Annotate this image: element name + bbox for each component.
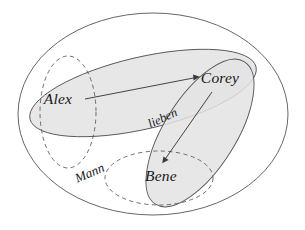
entity-label-corey: Corey xyxy=(201,69,239,86)
entity-label-bene: Bene xyxy=(145,167,177,184)
venn-diagram-svg: Alex Corey Bene lieben Mann xyxy=(0,0,305,230)
entity-label-alex: Alex xyxy=(43,90,72,107)
set-diagram-canvas: Alex Corey Bene lieben Mann xyxy=(0,0,305,230)
set-label-mann: Mann xyxy=(72,160,107,186)
